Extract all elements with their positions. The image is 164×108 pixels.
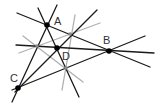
- point-a: [44, 22, 50, 28]
- label-b: B: [103, 34, 110, 46]
- black-lines-group: [12, 5, 154, 102]
- geometry-diagram: A B C D: [0, 0, 164, 108]
- point-b: [106, 48, 112, 54]
- black-line-4: [12, 36, 145, 90]
- label-c: C: [10, 72, 18, 84]
- label-d: D: [62, 50, 70, 62]
- point-c: [15, 85, 21, 91]
- label-a: A: [54, 15, 62, 27]
- point-p1: [68, 32, 72, 36]
- point-p2: [35, 44, 39, 48]
- point-d: [54, 45, 60, 51]
- black-line-1: [17, 13, 150, 67]
- point-p3: [64, 66, 68, 70]
